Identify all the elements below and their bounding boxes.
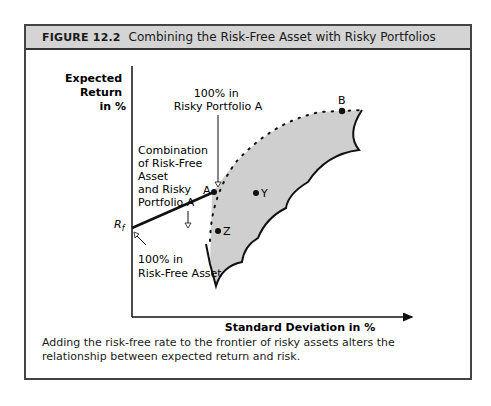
annotation-risky-a: 100% in Risky Portfolio A <box>174 87 263 113</box>
figure-frame: FIGURE 12.2 Combining the Risk-Free Asse… <box>24 24 472 380</box>
risk-free-r: R <box>114 218 122 231</box>
annotation-combination-line-4: and Risky <box>138 183 192 196</box>
risk-free-label: Rf <box>114 218 126 233</box>
annotation-riskfree-line-2: Risk-Free Asset <box>138 267 222 280</box>
point-a-label: A <box>203 184 211 197</box>
y-axis-label-line-3: in % <box>100 100 126 113</box>
x-axis-label: Standard Deviation in % <box>225 321 376 334</box>
figure-caption: Adding the risk-free rate to the frontie… <box>42 336 452 364</box>
y-axis-label-line-2: Return <box>80 86 122 99</box>
point-y <box>253 190 259 196</box>
y-axis-label-line-1: Expected <box>65 72 122 85</box>
point-z-label: Z <box>223 225 231 238</box>
annotation-risky-a-line-2: Risky Portfolio A <box>174 100 263 113</box>
annotation-combination-line-1: Combination <box>138 144 208 157</box>
annotation-combination-line-2: of Risk-Free <box>138 157 202 170</box>
point-z <box>215 228 221 234</box>
annotation-riskfree-line-1: 100% in <box>138 253 183 266</box>
risk-free-sub: f <box>122 224 126 233</box>
pointer-riskfree <box>137 236 146 245</box>
annotation-combination-line-3: Asset <box>138 170 169 183</box>
point-b <box>339 108 345 114</box>
y-axis-label: Expected Return in % <box>65 72 126 113</box>
annotation-riskfree: 100% in Risk-Free Asset <box>138 253 222 280</box>
pointer-combination-head <box>185 223 191 228</box>
annotation-combination-line-5: Portfolio A <box>138 196 195 209</box>
point-a <box>211 189 217 195</box>
risky-portfolio-region <box>210 110 362 286</box>
point-y-label: Y <box>260 187 268 200</box>
diagram-canvas: A B Y Z Rf Expected Return in % 100% in … <box>26 26 474 382</box>
point-b-label: B <box>338 94 346 107</box>
annotation-risky-a-line-1: 100% in <box>194 87 239 100</box>
